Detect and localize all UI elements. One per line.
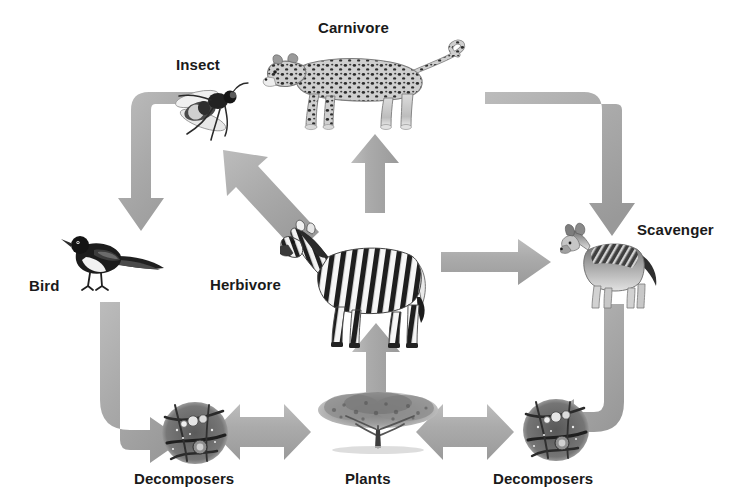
food-web-diagram: Carnivore Insect Bird Herbivore Scavenge… xyxy=(0,0,741,502)
label-scavenger: Scavenger xyxy=(637,222,714,237)
magpie-illustration xyxy=(60,228,170,296)
label-insect: Insect xyxy=(176,57,220,72)
zebra-illustration xyxy=(280,213,450,353)
decomposers-left-illustration xyxy=(157,397,233,469)
label-herbivore: Herbivore xyxy=(210,277,281,292)
label-plants: Plants xyxy=(345,471,391,486)
label-bird: Bird xyxy=(29,278,59,293)
label-decomposers-right: Decomposers xyxy=(493,471,593,486)
label-decomposers-left: Decomposers xyxy=(134,471,234,486)
label-carnivore: Carnivore xyxy=(318,20,389,35)
fly-illustration xyxy=(163,80,255,150)
arrow-carnivore-to-scavenger xyxy=(485,92,635,236)
acacia-tree-illustration xyxy=(308,386,448,458)
leopard-illustration xyxy=(262,36,482,131)
arrow-herbivore-to-carnivore xyxy=(351,134,399,213)
decomposers-right-illustration xyxy=(518,394,594,466)
arrow-herbivore-to-scavenger xyxy=(441,239,551,285)
